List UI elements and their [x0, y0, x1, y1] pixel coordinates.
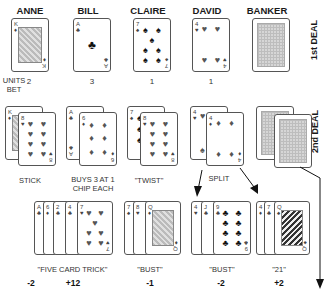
- score-david-split2: +2: [271, 278, 287, 288]
- score-david-split1: -2: [214, 278, 228, 288]
- banker-flow-arrow-head: [316, 279, 324, 289]
- score-anne-vs-bill-minus: -2: [24, 278, 38, 288]
- split2-card-queen-spades: Q♠Q♠: [274, 201, 310, 255]
- split-arrow-left-head: [194, 186, 202, 197]
- trick-card-seven-hearts: 7♥ ♥♥♥♥♥♥♥ 7♥: [77, 201, 113, 255]
- david-bust-label: "BUST": [202, 265, 242, 274]
- score-bill-plus: +12: [64, 278, 82, 288]
- split-arrow-right: [240, 168, 254, 187]
- split1-card-nine-clubs: 9♣ ♣♣♣♣♣♣♣♣ 9♣: [213, 201, 251, 255]
- bust-card-queen-diamonds: Q♦Q♦: [145, 201, 181, 255]
- score-claire: -1: [143, 278, 157, 288]
- claire-bust-label: "BUST": [130, 265, 170, 274]
- split-arrow-right-head: [250, 184, 258, 194]
- five-card-trick-label: "FIVE CARD TRICK": [30, 265, 115, 274]
- twenty-one-label: "21": [264, 265, 294, 274]
